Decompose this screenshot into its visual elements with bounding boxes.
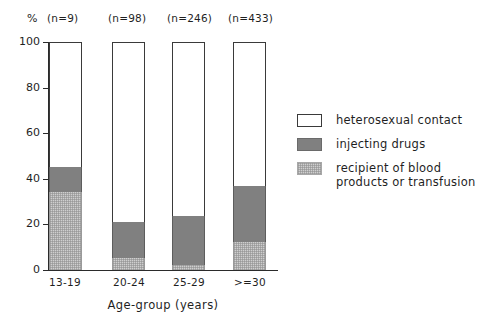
- legend-label-recipient-blood-products: recipient of blood products or transfusi…: [336, 161, 475, 189]
- bar-20-24: [112, 42, 145, 270]
- bar-13-19-segment-recipient-blood-products: [49, 192, 82, 270]
- bar-13-19-segment-injecting-drugs: [49, 167, 82, 193]
- y-tick-label-40: 40: [0, 172, 40, 185]
- bar-25-29-segment-injecting-drugs: [172, 216, 205, 266]
- y-tick-label-80: 80: [0, 81, 40, 94]
- bar-13-19: [49, 42, 82, 270]
- y-tick-label-0: 0: [0, 263, 40, 276]
- stacked-bar-chart: % (n=9) (n=98) (n=246) (n=433) 100 80 60…: [0, 0, 488, 326]
- group-count-20-24: (n=98): [108, 12, 168, 24]
- bar-30-plus-segment-heterosexual-contact: [233, 42, 266, 187]
- percent-axis-symbol: %: [27, 12, 38, 25]
- x-axis-title: Age-group (years): [48, 298, 278, 312]
- y-tick-mark-60: [43, 133, 48, 134]
- y-tick-mark-40: [43, 179, 48, 180]
- bar-25-29-segment-heterosexual-contact: [172, 42, 205, 217]
- legend-item-recipient-blood-products: recipient of blood products or transfusi…: [297, 161, 485, 189]
- x-axis-line: [48, 270, 278, 271]
- x-tick-label-30-plus: >=30: [215, 276, 285, 288]
- bar-20-24-segment-heterosexual-contact: [112, 42, 145, 223]
- group-count-30-plus: (n=433): [228, 12, 292, 24]
- bar-30-plus: [233, 42, 266, 270]
- bar-20-24-segment-injecting-drugs: [112, 222, 145, 259]
- x-tick-label-25-29: 25-29: [154, 276, 224, 288]
- x-tick-label-13-19: 13-19: [30, 276, 100, 288]
- y-tick-label-100: 100: [0, 35, 40, 48]
- group-count-25-29: (n=246): [167, 12, 231, 24]
- legend-label-heterosexual-contact: heterosexual contact: [336, 113, 462, 127]
- y-tick-mark-0: [43, 270, 48, 271]
- legend-label-injecting-drugs: injecting drugs: [336, 137, 425, 151]
- y-tick-mark-100: [43, 42, 48, 43]
- legend-item-injecting-drugs: injecting drugs: [297, 137, 485, 151]
- bar-20-24-segment-recipient-blood-products: [112, 258, 145, 270]
- legend-swatch-recipient-blood-products: [297, 162, 322, 175]
- legend-swatch-injecting-drugs: [297, 138, 322, 151]
- legend-swatch-heterosexual-contact: [297, 114, 322, 127]
- y-tick-label-20: 20: [0, 217, 40, 230]
- legend: heterosexual contact injecting drugs rec…: [297, 113, 485, 199]
- bar-30-plus-segment-recipient-blood-products: [233, 242, 266, 270]
- bar-25-29-segment-recipient-blood-products: [172, 265, 205, 270]
- legend-item-heterosexual-contact: heterosexual contact: [297, 113, 485, 127]
- y-tick-mark-80: [43, 88, 48, 89]
- y-tick-label-60: 60: [0, 126, 40, 139]
- group-count-13-19: (n=9): [47, 12, 107, 24]
- bar-30-plus-segment-injecting-drugs: [233, 186, 266, 243]
- bar-25-29: [172, 42, 205, 270]
- bar-13-19-segment-heterosexual-contact: [49, 42, 82, 168]
- y-tick-mark-20: [43, 224, 48, 225]
